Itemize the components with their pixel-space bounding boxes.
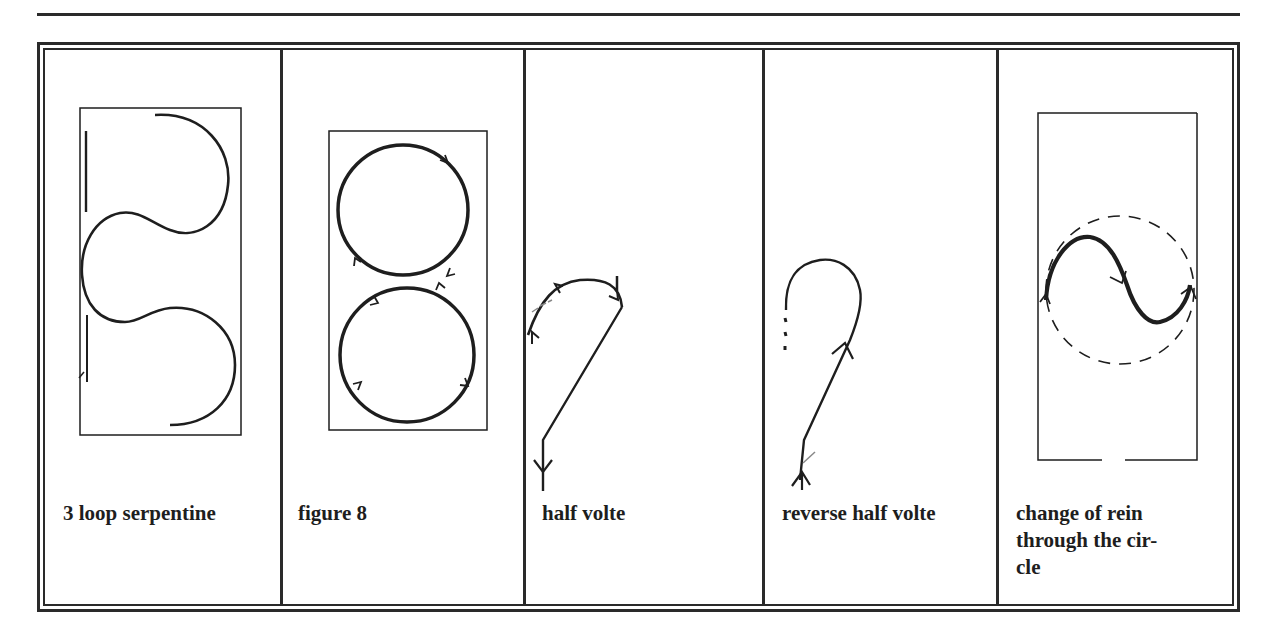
panel-label-half-volte: half volte <box>542 500 625 527</box>
panel-label-reverse-half-volte: reverse half volte <box>782 500 936 527</box>
reverse-half-volte-diagram <box>785 260 861 490</box>
label-line: through the cir- <box>1016 527 1157 554</box>
serpentine-diagram <box>79 108 241 435</box>
label-line: change of rein <box>1016 500 1157 527</box>
arena-rect <box>80 108 241 435</box>
dashed-circle <box>1046 216 1194 364</box>
panel-label-change-of-rein: change of rein through the cir- cle <box>1016 500 1157 581</box>
arena-rect <box>1038 113 1197 460</box>
start-mark <box>792 472 810 490</box>
panel-label-figure-eight: figure 8 <box>298 500 367 527</box>
direction-arrows <box>1040 271 1196 304</box>
reverse-half-volte-path <box>786 260 861 480</box>
dotted-continuation <box>785 318 786 350</box>
half-volte-line <box>543 307 622 491</box>
label-line: cle <box>1016 554 1157 581</box>
figure-eight-diagram <box>329 131 487 430</box>
half-volte-diagram <box>528 276 622 491</box>
lower-circle <box>340 288 474 422</box>
panel-label-serpentine: 3 loop serpentine <box>63 500 216 527</box>
half-volte-arc <box>528 280 622 335</box>
upper-circle <box>338 145 468 275</box>
s-curve-path <box>1046 237 1190 322</box>
serpentine-path <box>82 115 235 425</box>
change-of-rein-diagram <box>1038 113 1197 460</box>
direction-arrows <box>353 155 468 390</box>
